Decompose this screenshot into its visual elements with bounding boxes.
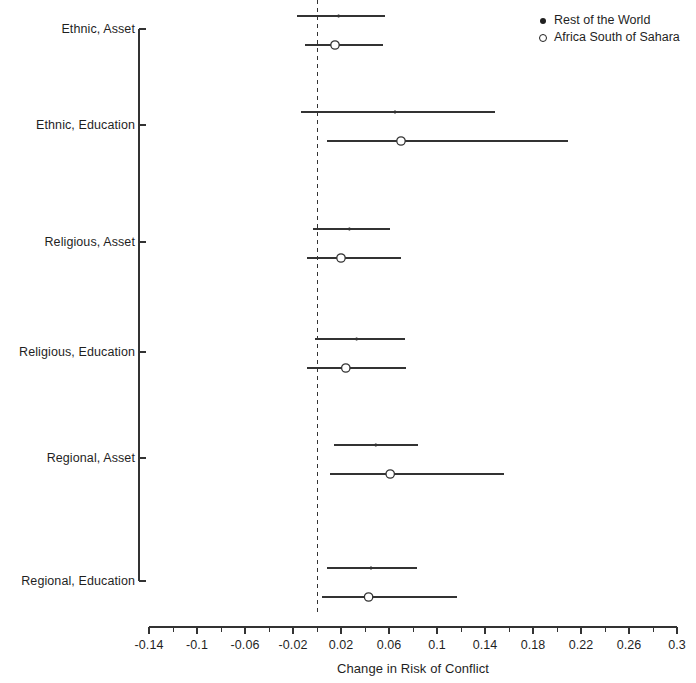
y-axis-label-4: Regional, Asset	[47, 451, 135, 465]
x-axis-label-5: 0.06	[377, 638, 402, 652]
estimate-marker-open	[397, 137, 405, 145]
estimate-marker-open	[331, 41, 339, 49]
y-axis-label-3: Religious, Education	[19, 345, 135, 359]
x-axis-label-2: -0.06	[231, 638, 260, 652]
interval-0-5	[327, 567, 417, 570]
estimate-marker-open	[342, 364, 350, 372]
x-axis-label-8: 0.18	[521, 638, 546, 652]
estimate-marker-filled	[348, 228, 351, 231]
x-axis-label-1: -0.1	[186, 638, 208, 652]
y-axis-label-1: Ethnic, Education	[36, 118, 135, 132]
estimate-marker-filled	[370, 567, 373, 570]
y-axis-label-5: Regional, Education	[21, 574, 135, 588]
x-axis-label-3: -0.02	[279, 638, 308, 652]
interval-1-5	[322, 593, 458, 601]
x-axis-label-6: 0.1	[428, 638, 446, 652]
estimate-marker-open	[386, 470, 394, 478]
interval-0-2	[313, 228, 390, 231]
estimate-marker-open	[337, 254, 345, 262]
interval-1-3	[307, 364, 405, 372]
legend-label-rest-of-world: Rest of the World	[554, 14, 650, 27]
plot-area: Ethnic, AssetEthnic, EducationReligious,…	[0, 0, 696, 683]
forest-plot-figure: Ethnic, AssetEthnic, EducationReligious,…	[0, 0, 696, 683]
x-axis-label-11: 0.3	[668, 638, 686, 652]
interval-0-3	[315, 338, 405, 341]
estimate-marker-filled	[355, 338, 358, 341]
interval-1-2	[307, 254, 401, 262]
estimate-marker-open	[364, 593, 372, 601]
x-axis-label-7: 0.14	[473, 638, 498, 652]
legend-label-africa-south-of-sahara: Africa South of Sahara	[554, 31, 680, 44]
x-axis-label-10: 0.26	[617, 638, 642, 652]
interval-1-4	[330, 470, 504, 478]
chart-legend: Rest of the World Africa South of Sahara	[536, 12, 680, 46]
filled-circle-icon	[536, 14, 550, 28]
estimate-marker-filled	[337, 15, 340, 18]
interval-0-1	[301, 111, 494, 114]
estimate-marker-filled	[375, 444, 378, 447]
x-axis-title: Change in Risk of Conflict	[337, 661, 489, 676]
legend-item-africa-south-of-sahara: Africa South of Sahara	[536, 29, 680, 46]
x-axis-label-0: -0.14	[135, 638, 164, 652]
interval-1-1	[327, 137, 568, 145]
legend-item-rest-of-world: Rest of the World	[536, 12, 680, 29]
y-axis-label-2: Religious, Asset	[44, 235, 135, 249]
y-axis-label-0: Ethnic, Asset	[61, 22, 135, 36]
estimate-marker-filled	[394, 111, 397, 114]
x-axis-label-9: 0.22	[569, 638, 594, 652]
interval-0-4	[334, 444, 418, 447]
open-circle-icon	[536, 31, 550, 45]
x-axis-label-4: 0.02	[329, 638, 354, 652]
interval-0-0	[297, 15, 386, 18]
